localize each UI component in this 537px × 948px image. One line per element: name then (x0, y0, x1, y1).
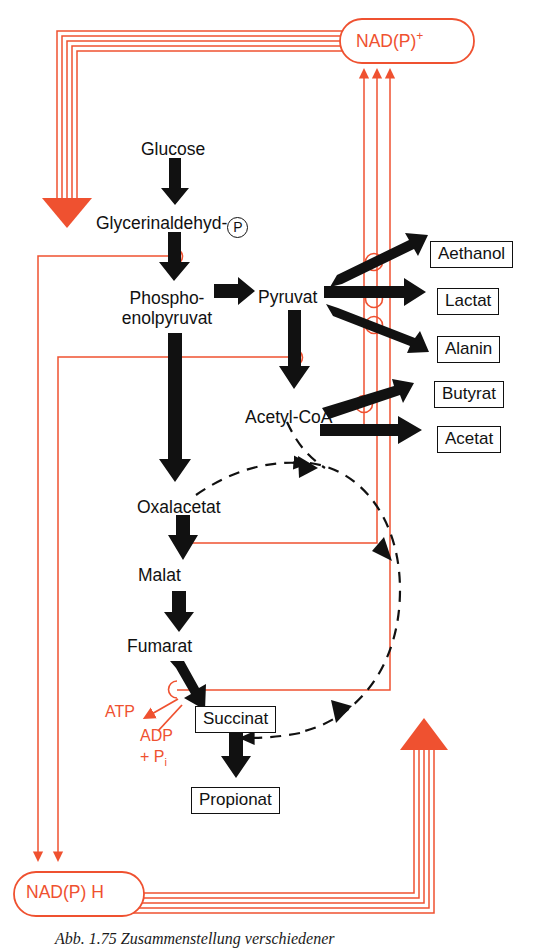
arrow-acetylcoa-acetat (320, 416, 422, 444)
product-box-propionat: Propionat (191, 787, 280, 814)
product-box-aethanol: Aethanol (430, 241, 513, 268)
g3p-text: Glycerinaldehyd- (96, 213, 227, 233)
dash-cycle-right (305, 463, 400, 731)
figure-caption: Abb. 1.75 Zusammenstellung verschiedener (55, 930, 335, 948)
arrow-oxalacetat-malat (168, 515, 198, 560)
metabolite-fumarat: Fumarat (127, 637, 192, 656)
product-box-acetat: Acetat (437, 426, 501, 453)
metabolite-acetyl-coa: Acetyl-CoA (245, 408, 333, 427)
arrow-glucose-g3p (161, 158, 189, 205)
product-box-alanin: Alanin (437, 336, 500, 363)
metabolite-oxalacetat: Oxalacetat (137, 498, 221, 517)
figure-canvas: NAD(P)+ NAD(P) H Glucose Glycerinaldehyd… (0, 0, 537, 948)
product-box-lactat: Lactat (437, 288, 499, 315)
arrow-fumarat-succinat (170, 661, 206, 710)
nadp-plus-left-bundle (57, 31, 343, 199)
dash-arrowhead-lower (331, 700, 352, 723)
metabolite-phosphoenolpyruvat: Phospho-enolpyruvat (112, 288, 222, 328)
arrow-pep-oxalacetat (159, 333, 191, 482)
phosphate-circle-icon: P (227, 217, 248, 238)
nadp-plus-output-arrowhead (42, 198, 92, 228)
metabolite-glucose: Glucose (141, 140, 205, 159)
dash-cycle-bottom (248, 733, 300, 738)
arrow-acetylcoa-butyrat (322, 379, 414, 419)
adp-label: ADP (140, 727, 173, 745)
nadph-input-arrowhead (400, 718, 448, 750)
dash-oxal-to-right (196, 463, 300, 495)
metabolite-glycerinaldehyd-phosphat: Glycerinaldehyd-P (96, 214, 248, 238)
phosphate-subscript: i (164, 756, 166, 768)
nadp-plus-label: NAD(P)+ (356, 29, 423, 52)
arrow-succinat-propionat (221, 729, 251, 778)
arrow-pyruvat-aethanol (330, 233, 428, 287)
metabolite-malat: Malat (138, 566, 181, 585)
arrow-malat-fumarat (164, 591, 194, 632)
redox-line-network (38, 31, 434, 913)
dash-arrowhead-right (372, 537, 392, 561)
product-box-butyrat: Butyrat (434, 381, 504, 408)
arrow-pyruvat-acetylcoa (279, 310, 310, 389)
nadp-plus-charge: + (416, 29, 423, 43)
atp-label: ATP (105, 703, 135, 721)
nadph-label: NAD(P) H (26, 882, 104, 903)
phosphate-label: + Pi (140, 748, 167, 768)
metabolite-pyruvat: Pyruvat (258, 288, 317, 307)
reaction-arrows (159, 158, 429, 778)
product-box-succinat: Succinat (195, 706, 276, 733)
